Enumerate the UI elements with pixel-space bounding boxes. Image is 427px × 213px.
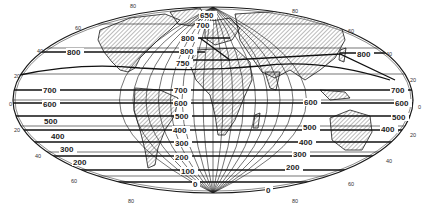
svg-text:0: 0: [193, 180, 198, 189]
svg-text:500: 500: [303, 123, 317, 132]
svg-text:300: 300: [60, 145, 74, 154]
svg-text:60: 60: [75, 25, 81, 31]
figure-caption: [6, 206, 421, 213]
svg-text:700: 700: [174, 86, 188, 95]
svg-text:200: 200: [175, 153, 189, 162]
svg-text:60: 60: [348, 181, 354, 187]
svg-text:750: 750: [176, 59, 190, 68]
svg-text:500: 500: [44, 117, 58, 126]
svg-text:400: 400: [299, 138, 313, 147]
svg-text:600: 600: [43, 100, 57, 109]
svg-text:200: 200: [286, 163, 300, 172]
svg-text:700: 700: [196, 21, 210, 30]
svg-text:40: 40: [35, 153, 41, 159]
svg-text:60: 60: [71, 178, 77, 184]
svg-text:80: 80: [128, 198, 134, 204]
svg-text:700: 700: [391, 86, 405, 95]
svg-text:60: 60: [348, 28, 354, 34]
svg-text:300: 300: [175, 139, 189, 148]
svg-text:400: 400: [173, 126, 187, 135]
svg-text:600: 600: [174, 99, 188, 108]
svg-text:400: 400: [381, 125, 395, 134]
svg-text:80: 80: [292, 8, 298, 14]
svg-text:0: 0: [418, 104, 421, 110]
svg-text:800: 800: [181, 34, 195, 43]
svg-text:650: 650: [200, 11, 214, 20]
svg-text:20: 20: [410, 77, 416, 83]
svg-text:20: 20: [14, 73, 20, 79]
svg-text:40: 40: [386, 158, 392, 164]
svg-text:500: 500: [392, 113, 406, 122]
svg-text:40: 40: [37, 48, 43, 54]
svg-text:800: 800: [357, 50, 371, 59]
svg-text:0: 0: [9, 101, 12, 107]
svg-text:600: 600: [304, 98, 318, 107]
svg-text:80: 80: [292, 198, 298, 204]
svg-text:600: 600: [395, 99, 409, 108]
svg-text:700: 700: [43, 86, 57, 95]
svg-text:200: 200: [73, 158, 87, 167]
svg-text:80: 80: [130, 3, 136, 9]
svg-text:0: 0: [266, 186, 271, 195]
svg-text:800: 800: [67, 48, 81, 57]
svg-text:20: 20: [14, 127, 20, 133]
svg-text:800: 800: [180, 47, 194, 56]
world-map: 80 60 40 20 0 20 40 60 80 80 60 40 20 0 …: [0, 0, 427, 213]
svg-text:100: 100: [181, 167, 195, 176]
svg-text:40: 40: [386, 51, 392, 57]
svg-text:20: 20: [410, 132, 416, 138]
svg-text:300: 300: [293, 150, 307, 159]
svg-text:500: 500: [175, 112, 189, 121]
svg-text:400: 400: [51, 132, 65, 141]
